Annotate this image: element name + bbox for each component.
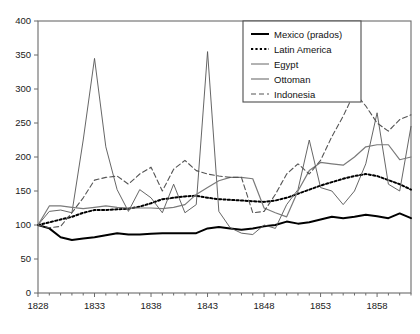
y-tick-label: 300 [15,83,31,94]
legend-label-latin-america: Latin America [274,44,332,55]
x-tick-label: 1843 [197,300,218,311]
chart-canvas: 050100150200250300350400 182818331838184… [0,0,420,334]
legend-label-egypt: Egypt [274,59,299,70]
line-chart: 050100150200250300350400 182818331838184… [0,0,420,334]
y-tick-label: 50 [20,253,31,264]
chart-legend: Mexico (prados)Latin AmericaEgyptOttoman… [243,21,361,102]
x-tick-label: 1828 [27,300,48,311]
x-tick-label: 1853 [310,300,331,311]
y-tick-label: 350 [15,49,31,60]
legend-label-indonesia: Indonesia [274,89,316,100]
y-tick-label: 250 [15,117,31,128]
y-tick-label: 200 [15,151,31,162]
x-tick-label: 1838 [140,300,161,311]
x-tick-label: 1833 [84,300,105,311]
x-tick-label: 1848 [253,300,274,311]
legend-label-ottoman: Ottoman [274,74,310,85]
y-tick-label: 150 [15,185,31,196]
x-tick-label: 1858 [367,300,388,311]
legend-label-mexico-prados: Mexico (prados) [274,29,342,40]
y-tick-label: 0 [26,287,31,298]
y-tick-label: 400 [15,15,31,26]
y-tick-label: 100 [15,219,31,230]
